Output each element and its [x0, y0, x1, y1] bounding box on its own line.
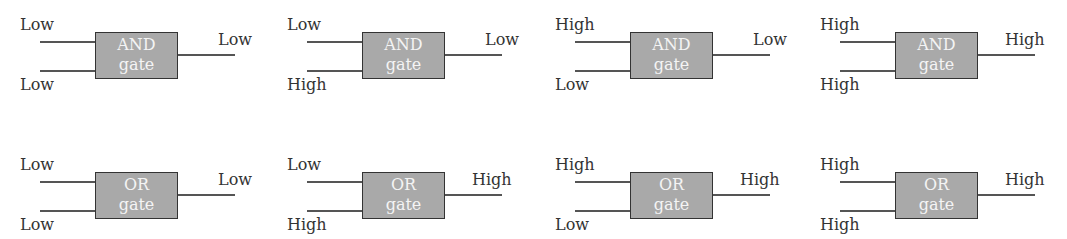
input-2-label: High	[820, 216, 860, 234]
output-wire	[713, 54, 770, 56]
gate-subtitle: gate	[631, 55, 712, 75]
and-gate-3: High Low AND gate Low	[535, 0, 802, 100]
output-label: Low	[753, 31, 787, 49]
or-gate-4: High High OR gate High	[800, 140, 1067, 239]
input-1-label: Low	[20, 16, 54, 34]
or-gate-2: Low High OR gate High	[267, 140, 534, 239]
gate-subtitle: gate	[96, 195, 177, 215]
gate-name: OR	[96, 175, 177, 195]
input-1-wire	[40, 181, 96, 183]
output-wire	[445, 54, 502, 56]
input-1-label: High	[820, 16, 860, 34]
gate-name: OR	[631, 175, 712, 195]
input-1-label: High	[555, 156, 595, 174]
gate-name: OR	[896, 175, 977, 195]
input-2-wire	[307, 210, 363, 212]
input-2-label: Low	[20, 76, 54, 94]
output-label: Low	[218, 31, 252, 49]
output-label: High	[472, 171, 512, 189]
input-1-wire	[40, 41, 96, 43]
input-2-wire	[575, 210, 631, 212]
input-2-label: High	[287, 216, 327, 234]
input-2-wire	[40, 70, 96, 72]
input-1-wire	[307, 181, 363, 183]
input-1-wire	[840, 181, 896, 183]
input-1-wire	[840, 41, 896, 43]
and-gate-2: Low High AND gate Low	[267, 0, 534, 100]
gate-box: OR gate	[362, 172, 445, 219]
and-gate-1: Low Low AND gate Low	[0, 0, 267, 100]
input-1-wire	[575, 181, 631, 183]
input-2-label: High	[820, 76, 860, 94]
input-2-wire	[307, 70, 363, 72]
gate-box: OR gate	[895, 172, 978, 219]
output-label: High	[1005, 171, 1045, 189]
input-2-wire	[840, 70, 896, 72]
output-label: High	[740, 171, 780, 189]
output-wire	[178, 194, 235, 196]
or-gate-1: Low Low OR gate Low	[0, 140, 267, 239]
input-2-wire	[575, 70, 631, 72]
output-wire	[713, 194, 770, 196]
output-wire	[978, 54, 1035, 56]
and-gate-4: High High AND gate High	[800, 0, 1067, 100]
gate-box: AND gate	[362, 32, 445, 79]
gate-box: AND gate	[630, 32, 713, 79]
input-2-label: High	[287, 76, 327, 94]
gate-subtitle: gate	[96, 55, 177, 75]
output-label: Low	[485, 31, 519, 49]
input-1-wire	[575, 41, 631, 43]
or-gate-3: High Low OR gate High	[535, 140, 802, 239]
output-label: Low	[218, 171, 252, 189]
gate-name: AND	[896, 35, 977, 55]
output-wire	[978, 194, 1035, 196]
input-1-label: Low	[20, 156, 54, 174]
input-1-label: Low	[287, 156, 321, 174]
input-2-label: Low	[555, 216, 589, 234]
input-2-wire	[40, 210, 96, 212]
gate-subtitle: gate	[363, 55, 444, 75]
input-1-label: High	[820, 156, 860, 174]
input-2-wire	[840, 210, 896, 212]
output-label: High	[1005, 31, 1045, 49]
input-1-wire	[307, 41, 363, 43]
gate-box: AND gate	[95, 32, 178, 79]
gate-name: AND	[631, 35, 712, 55]
gate-subtitle: gate	[896, 195, 977, 215]
gate-subtitle: gate	[631, 195, 712, 215]
gate-box: OR gate	[95, 172, 178, 219]
gate-name: OR	[363, 175, 444, 195]
input-2-label: Low	[555, 76, 589, 94]
gate-subtitle: gate	[896, 55, 977, 75]
input-2-label: Low	[20, 216, 54, 234]
gate-subtitle: gate	[363, 195, 444, 215]
input-1-label: Low	[287, 16, 321, 34]
gate-name: AND	[96, 35, 177, 55]
gate-name: AND	[363, 35, 444, 55]
gate-box: OR gate	[630, 172, 713, 219]
output-wire	[178, 54, 235, 56]
input-1-label: High	[555, 16, 595, 34]
gate-box: AND gate	[895, 32, 978, 79]
output-wire	[445, 194, 502, 196]
